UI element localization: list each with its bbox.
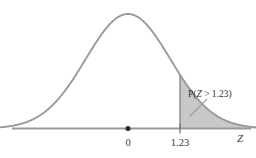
probability-prefix: P( <box>188 89 196 100</box>
mean-marker-dot <box>126 126 131 131</box>
axis-label-z: Z <box>237 132 244 144</box>
normal-distribution-figure: 0 1.23 Z P(Z > 1.23) <box>0 0 256 158</box>
probability-suffix: ) <box>228 89 231 100</box>
normal-density-curve <box>0 14 256 128</box>
distribution-plot: 0 1.23 Z P(Z > 1.23) <box>0 0 256 158</box>
probability-annotation: P(Z > 1.23) <box>188 89 232 100</box>
probability-operator: > <box>202 89 212 99</box>
shaded-tail-region <box>180 75 256 129</box>
tick-label-cutoff: 1.23 <box>171 137 189 148</box>
tick-label-mean: 0 <box>125 137 130 148</box>
probability-value: 1.23 <box>212 89 229 99</box>
